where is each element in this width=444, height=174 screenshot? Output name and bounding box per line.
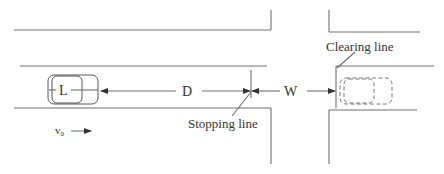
label-w: W	[284, 84, 298, 99]
label-velocity: v0	[55, 124, 65, 138]
label-l: L	[59, 83, 68, 98]
vehicle-cleared	[340, 78, 392, 104]
label-d: D	[182, 84, 192, 99]
stopping-line-leader	[232, 92, 251, 116]
label-clearing-line: Clearing line	[326, 39, 394, 54]
road-edge-top-left	[14, 10, 271, 30]
intersection-diagram: L D W Stopping line Clearing line v0	[0, 0, 444, 174]
road-edge-top-right	[329, 10, 420, 32]
label-stopping-line: Stopping line	[188, 116, 258, 131]
